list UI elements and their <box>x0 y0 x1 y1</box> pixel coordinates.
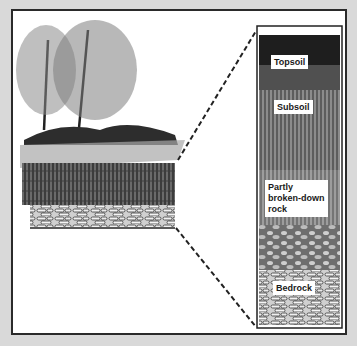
connector-top <box>178 31 256 160</box>
soil-block-stones <box>30 205 175 227</box>
label-bedrock: Bedrock <box>273 281 315 295</box>
connector-bottom <box>176 228 256 327</box>
label-line: rock <box>268 204 325 215</box>
label-line: broken-down <box>268 193 325 204</box>
label-subsoil: Subsoil <box>274 100 313 114</box>
label-topsoil: Topsoil <box>271 55 308 69</box>
soil-block <box>22 163 175 205</box>
trees-icon <box>16 20 137 130</box>
label-line: Partly <box>268 182 325 193</box>
label-partly-broken-down-rock: Partly broken-down rock <box>265 180 328 217</box>
